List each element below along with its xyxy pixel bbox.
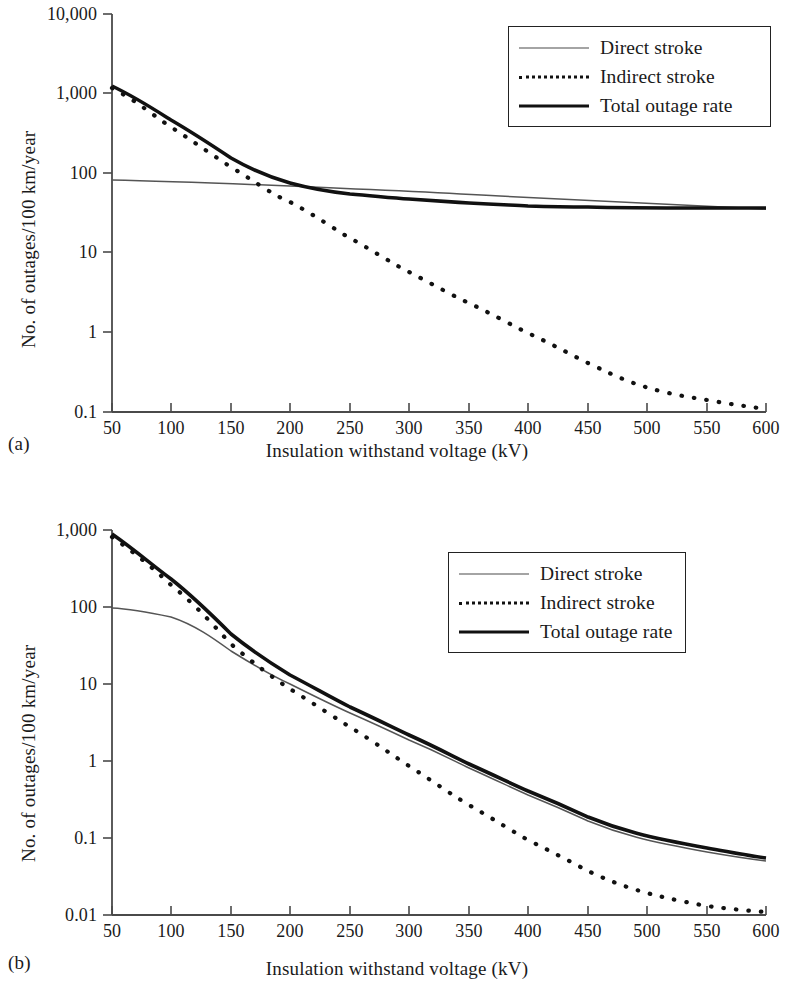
y-tick-label: 1,000 <box>56 520 97 541</box>
y-axis-title: No. of outages/100 km/year <box>18 645 40 862</box>
x-tick-label: 400 <box>514 418 541 439</box>
legend-b: Direct stroke Indirect stroke Total outa… <box>448 552 686 653</box>
legend-item-total-outage-rate: Total outage rate <box>457 617 675 646</box>
y-tick-label: 0.01 <box>65 905 97 926</box>
legend-label: Indirect stroke <box>540 592 655 614</box>
y-tick-label: 1 <box>88 322 97 343</box>
legend-label: Indirect stroke <box>600 66 715 88</box>
x-tick-label: 500 <box>633 921 660 942</box>
x-tick-label: 550 <box>693 418 720 439</box>
chart-panel-a: 10,000 1,000 100 10 1 0.1 50 100 150 200… <box>0 0 794 503</box>
x-tick-label: 450 <box>574 418 601 439</box>
legend-item-indirect-stroke: Indirect stroke <box>457 588 675 617</box>
legend-item-total-outage-rate: Total outage rate <box>517 91 760 120</box>
legend-swatch-thick-line <box>457 625 531 639</box>
y-tick-label: 10 <box>79 242 97 263</box>
x-axis-title: Insulation withstand voltage (kV) <box>0 958 794 980</box>
x-tick-label: 600 <box>752 921 779 942</box>
x-tick-label: 350 <box>455 418 482 439</box>
legend-item-direct-stroke: Direct stroke <box>457 559 675 588</box>
panel-label-a: (a) <box>8 433 30 455</box>
x-tick-label: 100 <box>157 418 184 439</box>
x-tick-label: 100 <box>157 921 184 942</box>
x-tick-label: 300 <box>395 418 422 439</box>
x-tick-label: 400 <box>514 921 541 942</box>
legend-swatch-thin-line <box>457 567 531 581</box>
legend-label: Direct stroke <box>600 37 703 59</box>
x-tick-label: 50 <box>103 921 121 942</box>
x-tick-label: 350 <box>455 921 482 942</box>
legend-a: Direct stroke Indirect stroke Total outa… <box>508 26 771 127</box>
x-ticks-a <box>112 403 766 412</box>
legend-swatch-dotted-line <box>517 70 591 84</box>
y-tick-label: 0.1 <box>74 828 97 849</box>
y-tick-label: 100 <box>70 597 97 618</box>
figure-container: 10,000 1,000 100 10 1 0.1 50 100 150 200… <box>0 0 794 1006</box>
legend-swatch-thin-line <box>517 41 591 55</box>
legend-item-indirect-stroke: Indirect stroke <box>517 62 760 91</box>
y-tick-label: 10,000 <box>47 4 97 25</box>
y-tick-label: 1,000 <box>56 83 97 104</box>
legend-swatch-thick-line <box>517 99 591 113</box>
x-ticks-b <box>112 906 766 915</box>
legend-label: Total outage rate <box>540 621 672 643</box>
x-tick-label: 50 <box>103 418 121 439</box>
x-tick-label: 300 <box>395 921 422 942</box>
legend-label: Total outage rate <box>600 95 732 117</box>
y-axis-title: No. of outages/100 km/year <box>18 131 40 348</box>
legend-label: Direct stroke <box>540 563 643 585</box>
series-indirect-stroke-a <box>112 88 766 409</box>
x-tick-label: 450 <box>574 921 601 942</box>
x-tick-label: 150 <box>217 921 244 942</box>
y-ticks-a <box>103 14 112 412</box>
panel-label-b: (b) <box>8 952 31 974</box>
y-tick-label: 10 <box>79 674 97 695</box>
chart-panel-b: 1,000 100 10 1 0.1 0.01 50 100 150 200 2… <box>0 503 794 1006</box>
x-tick-label: 200 <box>276 418 303 439</box>
y-tick-label: 1 <box>88 751 97 772</box>
x-tick-label: 150 <box>217 418 244 439</box>
x-axis-title: Insulation withstand voltage (kV) <box>0 440 794 462</box>
x-tick-label: 250 <box>336 418 363 439</box>
y-tick-label: 0.1 <box>74 402 97 423</box>
legend-swatch-dotted-line <box>457 596 531 610</box>
x-tick-label: 250 <box>336 921 363 942</box>
legend-item-direct-stroke: Direct stroke <box>517 33 760 62</box>
x-tick-label: 500 <box>633 418 660 439</box>
x-tick-label: 600 <box>752 418 779 439</box>
x-tick-label: 550 <box>693 921 720 942</box>
y-ticks-b <box>103 530 112 915</box>
y-tick-label: 100 <box>70 163 97 184</box>
x-tick-label: 200 <box>276 921 303 942</box>
series-direct-stroke-a <box>112 180 766 209</box>
